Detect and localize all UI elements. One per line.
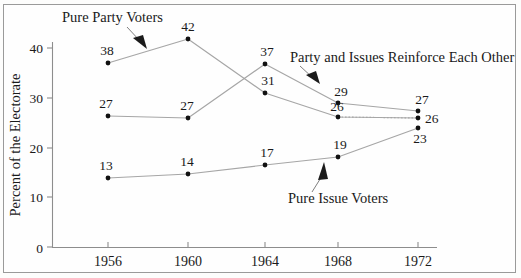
value-label-pure-party-1964: 31 <box>261 73 275 88</box>
point-reinforce-1972 <box>416 109 421 114</box>
point-pure-issue-1964 <box>263 163 268 168</box>
point-pure-issue-1972 <box>416 126 421 131</box>
x-tick-label-1964: 1964 <box>251 254 279 269</box>
annotation-pure-issue: Pure Issue Voters <box>288 190 389 206</box>
point-reinforce-1964 <box>263 62 268 67</box>
value-label-reinforce-1964: 37 <box>260 44 274 59</box>
x-tick-label-1956: 1956 <box>94 254 122 269</box>
y-axis-label: Percent of the Electorate <box>7 74 23 217</box>
value-label-pure-issue-1968: 19 <box>333 137 347 152</box>
point-pure-issue-1956 <box>106 176 111 181</box>
point-pure-party-1960 <box>186 37 191 42</box>
x-axis <box>53 242 438 248</box>
annotation-reinforce: Party and Issues Reinforce Each Other <box>290 49 514 65</box>
y-tick-label-20: 20 <box>30 141 44 156</box>
point-pure-party-1956 <box>106 61 111 66</box>
series-connector-dotted <box>338 117 418 118</box>
value-label-pure-issue-1972: 23 <box>413 131 427 146</box>
value-label-reinforce-1956: 27 <box>99 96 113 111</box>
y-tick-label-40: 40 <box>30 41 44 56</box>
point-pure-party-1972 <box>416 116 421 121</box>
value-label-pure-issue-1964: 17 <box>260 145 274 160</box>
value-label-pure-issue-1960: 14 <box>180 154 194 169</box>
arrow-head-icon <box>133 35 147 49</box>
line-chart: 0 10 20 30 40 1956 1960 1964 1968 1972 P… <box>0 0 521 278</box>
point-pure-party-1964 <box>263 91 268 96</box>
value-label-reinforce-1968: 29 <box>334 84 348 99</box>
value-label-pure-party-1968: 26 <box>330 99 344 114</box>
value-label-reinforce-1972: 27 <box>415 92 429 107</box>
x-tick-label-1968: 1968 <box>324 254 352 269</box>
y-tick-label-30: 30 <box>30 91 44 106</box>
point-pure-party-1968 <box>336 115 341 120</box>
annotation-pure-party-voters: Pure Party Voters <box>62 9 163 25</box>
y-tick-label-0: 0 <box>36 241 43 256</box>
point-pure-issue-1968 <box>336 155 341 160</box>
point-reinforce-1960 <box>186 116 191 121</box>
x-tick-label-1972: 1972 <box>404 254 432 269</box>
value-label-pure-party-1956: 38 <box>100 43 114 58</box>
y-tick-label-10: 10 <box>30 190 44 205</box>
value-label-pure-party-1960: 42 <box>181 19 195 34</box>
point-reinforce-1956 <box>106 114 111 119</box>
chart-figure: 0 10 20 30 40 1956 1960 1964 1968 1972 P… <box>0 0 521 278</box>
y-axis <box>47 42 53 248</box>
arrow-head-icon <box>318 162 328 180</box>
value-label-pure-party-1972: 26 <box>425 111 439 126</box>
x-tick-label-1960: 1960 <box>174 254 202 269</box>
value-label-reinforce-1960: 27 <box>180 98 194 113</box>
value-label-pure-issue-1956: 13 <box>99 158 113 173</box>
point-pure-issue-1960 <box>186 172 191 177</box>
